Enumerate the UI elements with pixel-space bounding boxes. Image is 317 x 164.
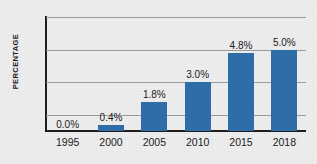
bar[interactable]: 0.4% <box>98 125 124 132</box>
bar[interactable]: 5.0% <box>271 50 297 131</box>
bar-slot: 0.0% <box>46 17 89 131</box>
bar-slot: 1.8% <box>133 17 176 131</box>
bar-value-label: 5.0% <box>273 37 296 48</box>
bar-slot: 3.0% <box>176 17 219 131</box>
plot-area: 0.0%0.4%1.8%3.0%4.8%5.0% <box>46 17 306 131</box>
bar-slot: 0.4% <box>89 17 132 131</box>
bar[interactable]: 4.8% <box>228 53 254 131</box>
bar-chart: PERCENTAGE 01357 0.0%0.4%1.8%3.0%4.8%5.0… <box>0 0 317 164</box>
x-axis-tick-label: 2018 <box>263 136 306 148</box>
bar-value-label: 4.8% <box>230 40 253 51</box>
bar-slot: 5.0% <box>263 17 306 131</box>
bar-value-label: 1.8% <box>143 89 166 100</box>
x-axis-tick-label: 1995 <box>46 136 89 148</box>
bar-value-label: 3.0% <box>186 69 209 80</box>
bar[interactable]: 3.0% <box>185 82 211 131</box>
x-axis-tick-label: 2005 <box>133 136 176 148</box>
x-axis-tick-label: 2000 <box>89 136 132 148</box>
x-axis-tick-label: 2010 <box>176 136 219 148</box>
x-axis-tick-label: 2015 <box>219 136 262 148</box>
bar-value-label: 0.4% <box>100 112 123 123</box>
y-axis-title: PERCENTAGE <box>11 22 20 102</box>
bar-value-label: 0.0% <box>56 119 79 130</box>
bar-slot: 4.8% <box>219 17 262 131</box>
bar[interactable]: 1.8% <box>141 102 167 131</box>
